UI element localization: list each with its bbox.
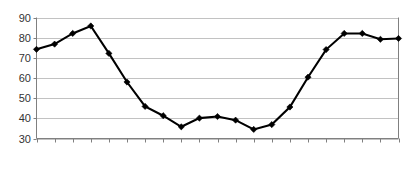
x-tick-label-1950: 1950 [31,183,43,184]
y-tick-label-60: 60 [19,72,31,84]
x-tick-label-1975: 1975 [121,183,133,184]
line-chart: 30405060708090 1950195519601965197019751… [0,0,413,183]
x-tick-label-2015: 2015 [266,183,278,184]
chart-canvas: 30405060708090 1950195519601965197019751… [0,0,413,183]
x-tick-label-1985: 1985 [157,183,169,184]
chart-background [0,0,413,183]
y-tick-label-30: 30 [19,133,31,145]
y-tick-label-40: 40 [19,112,31,124]
x-tick-label-1990: 1990 [175,183,187,184]
x-tick-label-2020: 2020 [284,183,296,184]
y-tick-label-80: 80 [19,32,31,44]
y-tick-label-50: 50 [19,92,31,104]
x-tick-label-1995: 1995 [193,183,205,184]
x-tick-label-1970: 1970 [103,183,115,184]
x-axis-tick-labels: 1950195519601965197019751980198519901995… [31,183,405,184]
x-tick-label-2025: 2025 [302,183,314,184]
x-tick-label-2000: 2000 [212,183,224,184]
x-tick-label-1965: 1965 [85,183,97,184]
x-tick-label-2050: 2050 [393,183,405,184]
x-tick-label-2005: 2005 [230,183,242,184]
x-tick-label-2010: 2010 [248,183,260,184]
x-tick-label-1955: 1955 [49,183,61,184]
x-tick-label-2030: 2030 [320,183,332,184]
x-tick-label-1960: 1960 [67,183,79,184]
x-tick-label-2035: 2035 [338,183,350,184]
x-tick-label-1980: 1980 [139,183,151,184]
x-tick-label-2040: 2040 [356,183,368,184]
y-tick-label-90: 90 [19,12,31,24]
y-tick-label-70: 70 [19,52,31,64]
x-tick-label-2045: 2045 [374,183,386,184]
